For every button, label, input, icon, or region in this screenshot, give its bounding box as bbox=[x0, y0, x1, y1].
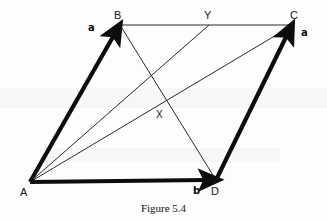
figure-caption: Figure 5.4 bbox=[0, 203, 327, 214]
line-bd bbox=[120, 25, 216, 180]
vertex-label-x: X bbox=[156, 110, 163, 120]
vertex-label-d: D bbox=[211, 186, 219, 197]
vector-label-a-dc: a bbox=[301, 28, 308, 38]
vertex-label-y: Y bbox=[204, 10, 212, 21]
figure-canvas: A B C D X Y a b a Figure 5.4 bbox=[0, 0, 327, 222]
vector-label-a-ab: a bbox=[88, 23, 95, 33]
vertex-label-a: A bbox=[20, 187, 28, 198]
vector-dc bbox=[216, 35, 287, 180]
vector-ad bbox=[30, 180, 206, 182]
vector-ab bbox=[30, 35, 114, 182]
line-ay bbox=[30, 25, 209, 182]
vertex-label-b: B bbox=[114, 10, 122, 21]
vector-label-b-ad: b bbox=[193, 186, 200, 196]
vertex-label-c: C bbox=[290, 10, 298, 21]
parallelogram-diagram bbox=[0, 0, 327, 222]
